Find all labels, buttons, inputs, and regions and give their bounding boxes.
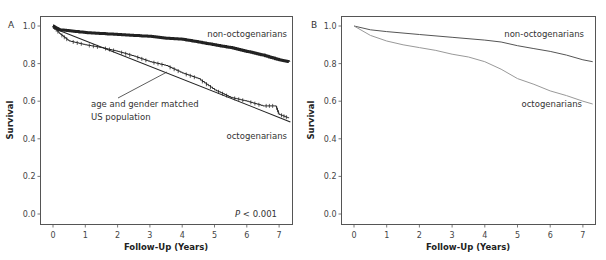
- x-tick-label: 1: [384, 231, 389, 240]
- panel-b-plot-frame: [342, 17, 596, 225]
- panel-a-label: A: [8, 20, 15, 30]
- x-tick-label: 5: [212, 231, 217, 240]
- y-tick-label: 0.2: [23, 172, 36, 181]
- p-value: P < 0.001: [235, 209, 277, 219]
- x-tick-label: 4: [482, 231, 487, 240]
- y-tick-label: 0.0: [23, 210, 36, 219]
- y-tick-label: 0.6: [324, 97, 337, 106]
- panel-b-y-axis: 0.00.20.40.60.81.0: [324, 22, 342, 219]
- x-tick-label: 3: [147, 231, 152, 240]
- panel-a-y-axis: 0.00.20.40.60.81.0: [23, 22, 41, 219]
- y-tick-label: 1.0: [324, 22, 337, 31]
- annotation-leader-line: [118, 72, 167, 98]
- y-tick-label: 0.8: [23, 60, 36, 69]
- label-octogenarians-b: octogenarians: [521, 99, 582, 109]
- figure: A 0.00.20.40.60.81.0 01234567 Survival F…: [0, 0, 606, 260]
- x-tick-label: 6: [244, 231, 249, 240]
- y-tick-label: 0.8: [324, 60, 337, 69]
- annotation-us-population-line1: age and gender matched: [91, 99, 199, 109]
- x-tick-label: 4: [180, 231, 185, 240]
- x-tick-label: 2: [115, 231, 120, 240]
- x-tick-label: 7: [277, 231, 282, 240]
- y-tick-label: 1.0: [23, 22, 36, 31]
- y-tick-label: 0.6: [23, 97, 36, 106]
- y-tick-label: 0.2: [324, 172, 337, 181]
- panel-a: A 0.00.20.40.60.81.0 01234567 Survival F…: [5, 17, 293, 253]
- x-tick-label: 0: [50, 231, 55, 240]
- annotation-us-population-line2: US population: [91, 112, 151, 122]
- x-tick-label: 7: [580, 231, 585, 240]
- panel-a-x-axis-title: Follow-Up (Years): [124, 242, 208, 252]
- panel-b-x-axis: 01234567: [351, 225, 585, 240]
- y-tick-label: 0.4: [23, 135, 36, 144]
- panel-b: B 0.00.20.40.60.81.0 01234567 Survival F…: [306, 17, 596, 253]
- panel-a-plot-frame: [41, 17, 293, 225]
- panel-b-x-axis-title: Follow-Up (Years): [426, 242, 510, 252]
- x-tick-label: 0: [351, 231, 356, 240]
- x-tick-label: 3: [450, 231, 455, 240]
- x-tick-label: 2: [417, 231, 422, 240]
- x-tick-label: 6: [548, 231, 553, 240]
- label-non-octogenarians-b: non-octogenarians: [504, 29, 584, 39]
- x-tick-label: 5: [515, 231, 520, 240]
- panel-a-x-axis: 01234567: [50, 225, 281, 240]
- y-tick-label: 0.0: [324, 210, 337, 219]
- panel-b-label: B: [311, 20, 317, 30]
- panel-a-y-axis-title: Survival: [5, 100, 15, 139]
- label-non-octogenarians-a: non-octogenarians: [207, 29, 287, 39]
- x-tick-label: 1: [83, 231, 88, 240]
- p-value-text: < 0.001: [240, 209, 277, 219]
- panel-b-y-axis-title: Survival: [306, 100, 316, 139]
- label-octogenarians-a: octogenarians: [226, 131, 287, 141]
- y-tick-label: 0.4: [324, 135, 337, 144]
